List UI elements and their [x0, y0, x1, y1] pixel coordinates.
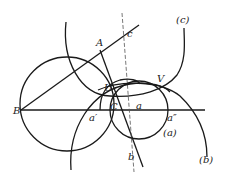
label-curve-c: (c) — [176, 14, 190, 25]
label-U: U — [104, 82, 113, 93]
label-C: C — [110, 101, 118, 112]
label-c: c — [127, 28, 133, 39]
label-V: V — [157, 73, 166, 84]
label-curve-b: (b) — [199, 154, 213, 165]
label-b: b — [128, 151, 134, 162]
label-a-double-prime: a″ — [167, 112, 177, 123]
label-a-prime: a′ — [89, 112, 98, 123]
label-B: B — [12, 105, 20, 116]
label-curve-a: (a) — [163, 127, 177, 138]
geometry-diagram: B A U V C a a′ a″ b c (a) (b) (c) — [0, 0, 226, 178]
label-a: a — [136, 100, 142, 111]
line-B-A-c — [21, 25, 139, 110]
label-A: A — [95, 37, 103, 48]
